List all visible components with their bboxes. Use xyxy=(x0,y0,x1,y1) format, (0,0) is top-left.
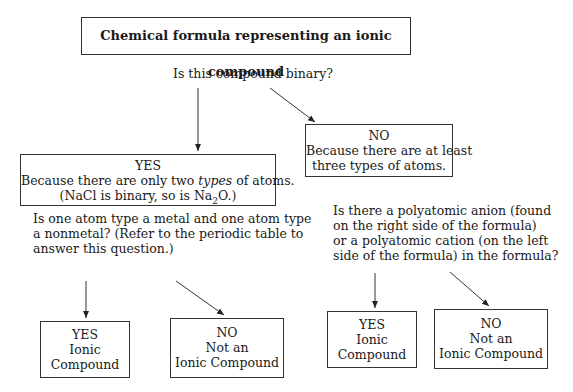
outcome-line-1: Not an xyxy=(435,331,547,346)
outcome-line-1: Not an xyxy=(171,340,283,355)
outcome-label: YES xyxy=(328,317,416,332)
arrow-binary-no xyxy=(270,88,315,122)
question-metal-line-1: Is one atom type a metal and one atom ty… xyxy=(33,211,311,226)
arrow-metal-no xyxy=(176,281,224,315)
question-poly-line-4: side of the formula) in the formula? xyxy=(333,248,558,263)
outcome-line-2: Ionic Compound xyxy=(435,346,547,361)
outcome-label: YES xyxy=(41,327,129,342)
yes-binary-box: YES Because there are only two types of … xyxy=(20,154,276,206)
question-metal-nonmetal: Is one atom type a metal and one atom ty… xyxy=(33,211,311,256)
question-binary: Is this compound binary? xyxy=(173,66,333,81)
yes-binary-reason: Because there are only two types of atom… xyxy=(21,173,275,188)
no-binary-reason-2: three types of atoms. xyxy=(306,158,452,173)
outcome-poly-yes-box: YES Ionic Compound xyxy=(327,311,417,368)
outcome-line-2: Compound xyxy=(41,357,129,372)
outcome-metal-no-box: NO Not an Ionic Compound xyxy=(170,318,284,378)
outcome-label: NO xyxy=(171,325,283,340)
no-binary-box: NO Because there are at least three type… xyxy=(305,124,453,177)
outcome-line-2: Compound xyxy=(328,347,416,362)
question-polyatomic: Is there a polyatomic anion (found on th… xyxy=(333,203,558,263)
yes-binary-example: (NaCl is binary, so is Na2O.) xyxy=(21,188,275,209)
no-label: NO xyxy=(306,128,452,143)
outcome-metal-yes-box: YES Ionic Compound xyxy=(40,321,130,378)
question-poly-line-3: or a polyatomic cation (on the left xyxy=(333,233,558,248)
question-metal-line-3: answer this question.) xyxy=(33,241,311,256)
outcome-line-1: Ionic xyxy=(328,332,416,347)
outcome-line-2: Ionic Compound xyxy=(171,355,283,370)
no-binary-reason-1: Because there are at least xyxy=(306,143,452,158)
outcome-poly-no-box: NO Not an Ionic Compound xyxy=(434,309,548,369)
question-poly-line-1: Is there a polyatomic anion (found xyxy=(333,203,558,218)
question-metal-line-2: a nonmetal? (Refer to the periodic table… xyxy=(33,226,311,241)
outcome-line-1: Ionic xyxy=(41,342,129,357)
title-box: Chemical formula representing an ionic c… xyxy=(81,17,411,55)
outcome-label: NO xyxy=(435,316,547,331)
yes-label: YES xyxy=(21,158,275,173)
question-poly-line-2: on the right side of the formula) xyxy=(333,218,558,233)
arrow-poly-no xyxy=(450,272,489,306)
